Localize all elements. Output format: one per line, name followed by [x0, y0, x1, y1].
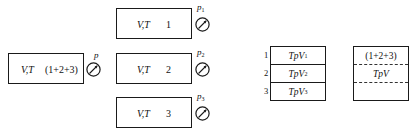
component-vessel-3: V,T 3: [116, 97, 192, 128]
mixture-gauge-letter: p: [94, 50, 99, 60]
mixture-gauge-label: p: [94, 50, 99, 60]
combined-volume-mid: TpV: [354, 64, 408, 82]
pressure-gauge-icon: [86, 62, 101, 77]
gauge-subscript: 3: [202, 96, 205, 102]
gauge-subscript: 1: [202, 7, 205, 13]
pressure-gauge-icon: [195, 62, 210, 77]
combined-volume-top: (1+2+3): [354, 47, 408, 65]
partial-volume-subscript: 3: [304, 89, 307, 95]
combined-volume: (1+2+3) TpV: [353, 46, 409, 101]
pressure-gauge-icon: [195, 17, 210, 32]
combined-volume-bottom: [354, 82, 408, 100]
gauge-subscript: 2: [202, 52, 205, 58]
row-number-3: 3: [264, 86, 268, 96]
partial-volume-label: TpV: [289, 51, 305, 61]
partial-volume-row-3: TpV3: [271, 82, 325, 100]
component-vessel-index: 2: [166, 63, 171, 74]
component-vessel-1: V,T 1: [116, 8, 192, 39]
gauge-label-p1: p1: [197, 2, 205, 13]
partial-volume-label: TpV: [289, 69, 305, 79]
partial-volume-row-2: TpV2: [271, 64, 325, 82]
partial-volume-label: TpV: [289, 87, 305, 97]
gauge-label-p2: p2: [197, 47, 205, 58]
component-vessel-vars: V,T: [137, 63, 150, 74]
mixture-vessel-vars: V,T: [21, 63, 34, 74]
mixture-vessel: V,T (1+2+3): [8, 53, 84, 84]
gauge-label-p3: p3: [197, 91, 205, 102]
component-vessel-index: 1: [166, 18, 171, 29]
pressure-gauge-icon: [195, 106, 210, 121]
component-vessel-vars: V,T: [137, 18, 150, 29]
component-vessel-2: V,T 2: [116, 53, 192, 84]
row-number-2: 2: [264, 68, 268, 78]
partial-volume-subscript: 2: [304, 71, 307, 77]
row-number-1: 1: [264, 50, 268, 60]
component-vessel-vars: V,T: [137, 107, 150, 118]
mixture-vessel-components: (1+2+3): [45, 63, 78, 74]
stacked-partial-volumes: TpV1 TpV2 TpV3: [270, 46, 326, 101]
partial-volume-row-1: TpV1: [271, 47, 325, 65]
component-vessel-index: 3: [166, 107, 171, 118]
partial-volume-subscript: 1: [304, 53, 307, 59]
